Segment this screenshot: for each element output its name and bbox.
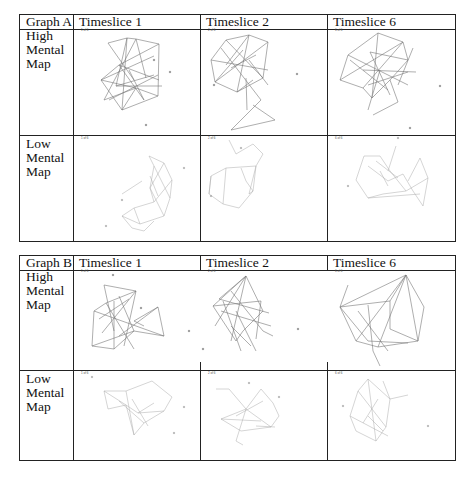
row-label-line: High [26, 270, 78, 284]
row-label-line: Mental [26, 386, 78, 400]
network-graph-icon [74, 30, 200, 135]
graph-b-row-label-low: Low Mental Map [26, 372, 78, 414]
graph-a-high-t6-drawing [328, 30, 454, 135]
graph-b-low-t6-drawing [328, 371, 454, 461]
network-graph-icon [74, 271, 200, 370]
graph-b-col-header-1: Timeslice 1 [79, 255, 142, 270]
row-label-line: Mental [26, 43, 78, 57]
graph-b-high-t1-drawing [74, 271, 200, 370]
network-graph-icon [328, 30, 454, 135]
graph-b-col-header-2: Timeslice 2 [206, 255, 269, 270]
graph-b-col-header-3: Timeslice 6 [333, 255, 396, 270]
network-graph-icon [328, 271, 454, 370]
graph-a-row-label-high: High Mental Map [26, 29, 78, 71]
row-label-line: Map [26, 57, 78, 71]
network-graph-icon [201, 30, 327, 135]
network-graph-icon [74, 136, 200, 241]
network-graph-icon [328, 136, 454, 241]
row-label-line: Map [26, 400, 78, 414]
row-label-line: Mental [26, 151, 78, 165]
graph-a-title: Graph A [26, 14, 72, 29]
network-graph-icon [201, 371, 327, 461]
graph-b-low-t1-drawing [74, 371, 200, 461]
graph-a-col-header-1: Timeslice 1 [79, 14, 142, 29]
row-label-line: Map [26, 298, 78, 312]
graph-b-col-divider-3 [327, 255, 328, 270]
network-graph-icon [201, 271, 327, 370]
graph-a-row-label-low: Low Mental Map [26, 137, 78, 179]
row-label-line: Mental [26, 284, 78, 298]
graph-b-col-divider-2 [200, 255, 201, 270]
graph-a-low-t2-drawing [201, 136, 327, 241]
graph-a-low-t1-drawing [74, 136, 200, 241]
graph-b-title: Graph B [26, 255, 72, 270]
network-graph-icon [201, 136, 327, 241]
graph-b-row-label-high: High Mental Map [26, 270, 78, 312]
graph-a-low-t6-drawing [328, 136, 454, 241]
graph-b-high-t2-drawing [201, 271, 327, 370]
row-label-line: Low [26, 372, 78, 386]
row-label-line: Low [26, 137, 78, 151]
graph-a-col-header-2: Timeslice 2 [206, 14, 269, 29]
network-graph-icon [328, 371, 454, 461]
graph-a-high-t2-drawing [201, 30, 327, 135]
row-label-line: Map [26, 165, 78, 179]
graph-b-low-t2-drawing [201, 371, 327, 461]
row-label-line: High [26, 29, 78, 43]
graph-b-high-t6-drawing [328, 271, 454, 370]
graph-a-high-t1-drawing [74, 30, 200, 135]
network-graph-icon [74, 371, 200, 461]
graph-a-col-header-3: Timeslice 6 [333, 14, 396, 29]
